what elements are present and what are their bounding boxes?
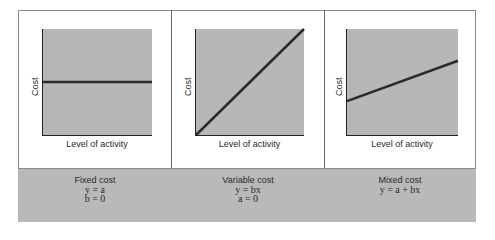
variable-cost-caption: Variable cost y = bx a = 0: [172, 176, 324, 203]
variable-cost-line: [196, 29, 304, 135]
mixed-cost-caption: Mixed cost y = a + bx: [324, 176, 476, 194]
fixed-cost-condition: b = 0: [19, 194, 171, 203]
variable-cost-y-axis-label: Cost: [183, 77, 193, 96]
mixed-cost-equation: y = a + bx: [324, 185, 476, 194]
variable-cost-line-svg: [196, 29, 304, 135]
fixed-cost-y-axis-label: Cost: [30, 77, 40, 96]
mixed-cost-x-axis-label: Level of activity: [346, 139, 458, 149]
variable-cost-plot: [195, 29, 304, 136]
variable-cost-condition: a = 0: [172, 194, 324, 203]
mixed-cost-line: [347, 61, 458, 101]
fixed-cost-plot: [42, 29, 152, 136]
fixed-cost-caption: Fixed cost y = a b = 0: [19, 176, 171, 203]
variable-cost-x-axis-label: Level of activity: [195, 139, 304, 149]
mixed-cost-y-axis-label: Cost: [334, 77, 344, 96]
fixed-cost-line-svg: [43, 29, 152, 135]
mixed-cost-plot: [346, 29, 458, 136]
fixed-cost-x-axis-label: Level of activity: [42, 139, 152, 149]
mixed-cost-line-svg: [347, 29, 458, 135]
